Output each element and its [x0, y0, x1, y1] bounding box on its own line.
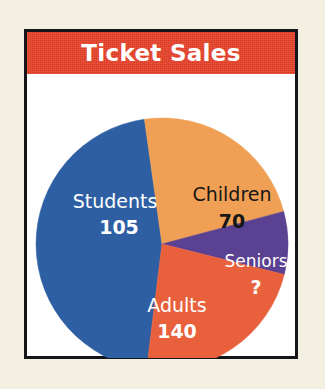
pie-slice-students[interactable] [36, 119, 162, 358]
pie-label-children: Children [192, 183, 271, 205]
pie-chart-area: Students105Children70Seniors?Adults140 [27, 74, 295, 356]
chart-title: Ticket Sales [81, 40, 240, 66]
chart-title-bar: Ticket Sales [27, 32, 295, 74]
pie-value-students: 105 [99, 216, 139, 238]
pie-label-students: Students [73, 190, 158, 212]
pie-label-seniors: Seniors [225, 251, 288, 271]
pie-chart-svg: Students105Children70Seniors?Adults140 [27, 74, 295, 358]
pie-label-adults: Adults [147, 294, 206, 316]
chart-card: Ticket Sales Students105Children70Senior… [24, 29, 298, 359]
pie-value-adults: 140 [157, 320, 197, 342]
pie-chart: Students105Children70Seniors?Adults140 [27, 74, 295, 356]
page-root: Ticket Sales Students105Children70Senior… [0, 0, 325, 389]
pie-value-seniors: ? [250, 276, 261, 298]
pie-value-children: 70 [219, 210, 245, 232]
